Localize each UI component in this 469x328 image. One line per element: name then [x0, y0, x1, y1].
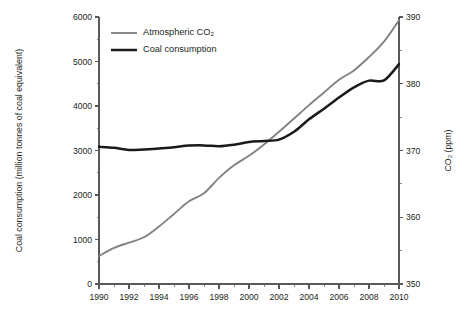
- series-line-coal-consumption: [99, 64, 399, 150]
- left-tick-label: 3000: [73, 146, 92, 156]
- left-tick-label: 0: [87, 279, 92, 289]
- x-tick-label: 2000: [239, 292, 258, 302]
- left-tick-label: 2000: [73, 190, 92, 200]
- series-line-atmospheric-co: [99, 20, 399, 256]
- chart-figure: 0100020003000400050006000 35036037038039…: [0, 0, 469, 328]
- legend-label-1: Atmospheric CO₂: [143, 27, 214, 37]
- left-tick-label: 5000: [73, 57, 92, 67]
- right-tick-label: 360: [406, 212, 421, 222]
- left-tick-label: 1000: [73, 235, 92, 245]
- right-tick-label: 380: [406, 79, 421, 89]
- x-tick-label: 1996: [179, 292, 198, 302]
- x-tick-label: 1994: [149, 292, 168, 302]
- x-tick-label: 1992: [119, 292, 138, 302]
- right-axis-title: CO₂ (ppm): [443, 129, 453, 171]
- x-tick-label: 2010: [389, 292, 408, 302]
- x-tick-label: 1998: [209, 292, 228, 302]
- left-tick-label: 4000: [73, 101, 92, 111]
- dual-axis-line-chart: 0100020003000400050006000 35036037038039…: [0, 0, 469, 328]
- legend-label-2: Coal consumption: [143, 44, 217, 54]
- right-tick-label: 390: [406, 12, 421, 22]
- right-tick-label: 370: [406, 146, 421, 156]
- left-axis-title: Coal consumption (million tonnes of coal…: [14, 49, 24, 252]
- chart-legend: Atmospheric CO₂Coal consumption: [111, 27, 217, 54]
- x-axis-ticks: 1990199219941996199820002002200420062008…: [89, 284, 408, 302]
- left-axis-ticks: 0100020003000400050006000: [73, 12, 99, 289]
- x-tick-label: 2006: [329, 292, 348, 302]
- left-tick-label: 6000: [73, 12, 92, 22]
- series-lines: [99, 20, 399, 256]
- x-tick-label: 2004: [299, 292, 318, 302]
- x-tick-label: 1990: [89, 292, 108, 302]
- x-tick-label: 2002: [269, 292, 288, 302]
- right-axis-ticks: 350360370380390: [399, 12, 421, 289]
- x-tick-label: 2008: [359, 292, 378, 302]
- right-tick-label: 350: [406, 279, 421, 289]
